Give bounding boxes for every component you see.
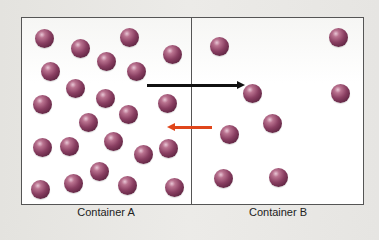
arrow-b-to-a-icon [174,126,212,129]
particle-icon [163,45,182,64]
container-divider [191,17,192,205]
particle-icon [331,84,350,103]
particle-icon [35,29,54,48]
particle-icon [33,138,52,157]
particle-icon [96,89,115,108]
particle-icon [165,178,184,197]
particle-icon [243,84,262,103]
particle-icon [329,28,348,47]
particle-icon [66,79,85,98]
particle-icon [159,139,178,158]
particle-icon [97,52,116,71]
particle-icon [214,169,233,188]
particle-icon [79,113,98,132]
particle-icon [220,125,239,144]
particle-icon [33,95,52,114]
particle-icon [269,168,288,187]
particle-icon [119,105,138,124]
particle-icon [158,94,177,113]
container-a-label: Container A [77,206,134,218]
particle-icon [60,137,79,156]
particle-icon [127,62,146,81]
particle-icon [120,28,139,47]
particle-icon [41,62,60,81]
particle-icon [90,162,109,181]
particle-icon [104,132,123,151]
particle-icon [31,180,50,199]
particle-icon [64,174,83,193]
arrow-a-to-b-icon [147,84,238,87]
particle-icon [118,176,137,195]
particle-icon [210,37,229,56]
particle-icon [134,145,153,164]
particle-icon [263,114,282,133]
container-b-label: Container B [249,206,307,218]
particle-icon [71,39,90,58]
